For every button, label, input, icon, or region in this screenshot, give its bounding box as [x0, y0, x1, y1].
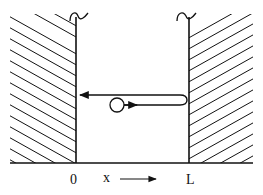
right-wall-break-icon: [177, 13, 196, 21]
left-wall-break-icon: [70, 13, 88, 21]
left-wall-hatching: [0, 0, 130, 195]
right-wall-hatching: [185, 0, 263, 194]
right-wall-label: L: [186, 173, 195, 187]
diagram-canvas: [0, 0, 263, 195]
x-axis-label: x: [103, 171, 110, 185]
origin-label: 0: [70, 173, 77, 187]
trajectory-reflection: [124, 95, 187, 105]
particle: [110, 98, 124, 112]
